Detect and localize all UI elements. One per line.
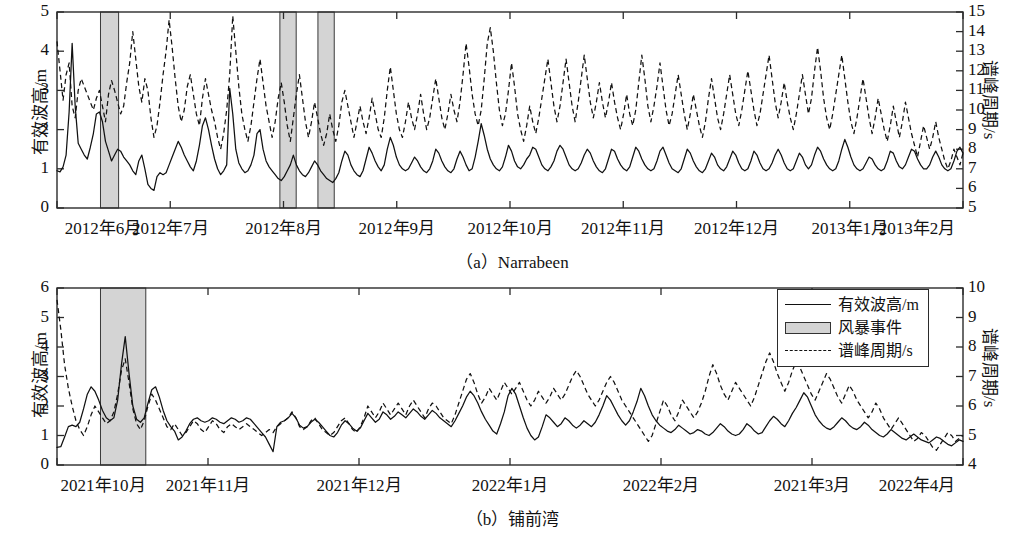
shaded-band-icon [785,321,831,335]
y2-tick-label: 5 [968,425,998,445]
y2-tick-label: 8 [968,336,998,356]
y2-tick-label: 6 [968,395,998,415]
y2-tick-label: 7 [968,366,998,386]
y-tick-label: 5 [15,1,49,21]
y-tick-label: 4 [15,336,49,356]
legend-label-storm-event: 风暴事件 [838,320,902,336]
x-tick-label: 2012年11月 [581,214,665,239]
y2-tick-label: 11 [968,79,998,99]
legend: 有效波高/m 风暴事件 谱峰周期/s [777,289,929,367]
x-tick-label: 2012年9月 [359,214,436,239]
y-tick-label: 1 [15,425,49,445]
panel-a-plot [0,0,1025,230]
y2-tick-label: 8 [968,138,998,158]
x-tick-label: 2021年10月 [61,471,146,496]
x-tick-label: 2012年7月 [132,214,209,239]
legend-label-peak-period: 谱峰周期/s [838,343,913,359]
x-tick-label: 2012年10月 [468,214,553,239]
y2-tick-label: 10 [968,277,998,297]
y-tick-label: 0 [15,197,49,217]
legend-label-wave-height: 有效波高/m [838,297,919,313]
y-tick-label: 4 [15,40,49,60]
y2-tick-label: 5 [968,197,998,217]
y2-tick-label: 13 [968,40,998,60]
plot-frame [57,12,963,208]
y-tick-label: 2 [15,395,49,415]
x-tick-label: 2013年1月 [812,214,889,239]
y2-tick-label: 12 [968,60,998,80]
y-tick-label: 2 [15,119,49,139]
solid-line-icon [785,298,831,312]
y-tick-label: 5 [15,307,49,327]
y2-tick-label: 15 [968,1,998,21]
y-tick-label: 3 [15,366,49,386]
panel-b-puqianwan: 有效波高/m 谱峰周期/s 有效波高/m 风暴事件 谱峰周期/s （b）铺前湾 … [0,283,1025,540]
y2-tick-label: 4 [968,454,998,474]
x-tick-label: 2021年12月 [317,471,402,496]
y2-tick-label: 14 [968,21,998,41]
y-tick-label: 3 [15,79,49,99]
dashed-line-icon [785,344,831,358]
legend-item-peak-period: 谱峰周期/s [785,339,919,362]
legend-item-wave-height: 有效波高/m [785,293,919,316]
panel-a-caption: （a）Narrabeen [0,248,1025,273]
x-tick-label: 2022年4月 [879,471,956,496]
legend-item-storm-event: 风暴事件 [785,316,919,339]
x-tick-label: 2021年3月 [774,471,851,496]
y2-tick-label: 9 [968,307,998,327]
x-tick-label: 2012年6月 [65,214,142,239]
y-tick-label: 1 [15,158,49,178]
panel-a-narrabeen: 有效波高/m 谱峰周期/s （a）Narrabeen 0123455678910… [0,0,1025,285]
y-tick-label: 6 [15,277,49,297]
y-tick-label: 0 [15,454,49,474]
panel-b-caption: （b）铺前湾 [0,505,1025,530]
x-tick-label: 2012年8月 [245,214,322,239]
y2-tick-label: 7 [968,158,998,178]
wave-climate-figure: 有效波高/m 谱峰周期/s （a）Narrabeen 0123455678910… [0,0,1025,540]
x-tick-label: 2021年11月 [166,471,250,496]
y2-tick-label: 9 [968,119,998,139]
x-tick-label: 2013年2月 [879,214,956,239]
y2-tick-label: 6 [968,177,998,197]
x-tick-label: 2022年2月 [623,471,700,496]
x-tick-label: 2012年12月 [694,214,779,239]
y2-tick-label: 10 [968,99,998,119]
x-tick-label: 2022年1月 [472,471,549,496]
